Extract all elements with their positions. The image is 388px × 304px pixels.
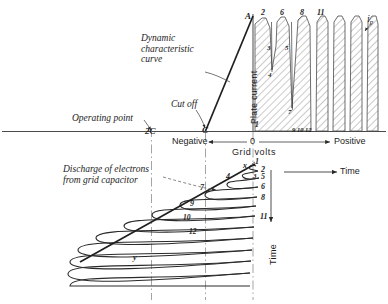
spiral-label-1: 1 xyxy=(255,157,259,166)
discharge-line-1: Discharge of electrons xyxy=(63,164,149,175)
spiral-label-8: 8 xyxy=(261,193,265,202)
plate-current-symbol: ip xyxy=(367,13,373,26)
discharge-leader xyxy=(163,177,216,190)
spiral-label-6: 6 xyxy=(261,182,265,191)
discharge-annotation: Discharge of electrons from grid capacit… xyxy=(63,164,149,185)
pulse-peak-label-8: 8 xyxy=(300,8,304,17)
baseline-label-10: 10 xyxy=(297,126,304,133)
operating-point-label: Operating point xyxy=(72,113,133,124)
grid-volts-axis-label: Grid volts xyxy=(232,147,276,157)
figure-svg xyxy=(0,0,388,304)
spiral-end-label-y: y xyxy=(133,253,137,262)
origin-label: 0 xyxy=(250,136,255,146)
time-axis-horizontal-label: Time xyxy=(340,166,360,176)
dynamic-curve-line-1: Dynamic xyxy=(141,33,194,44)
plate-current-symbol-p: p xyxy=(370,18,374,26)
dynamic-curve-leader xyxy=(205,72,230,82)
discharge-line-2: from grid capacitor xyxy=(63,175,149,186)
negative-axis-label: Negative xyxy=(172,136,208,146)
spiral-label-10: 10 xyxy=(183,213,191,222)
point-label-2C: 2C xyxy=(145,126,156,136)
spiral-label-4: 4 xyxy=(226,172,230,181)
pulse-valley-label-4: 4 xyxy=(268,71,272,79)
point-label-C: C xyxy=(202,125,208,135)
spiral-label-3: 3 xyxy=(253,172,257,180)
spiral-label-12: 12 xyxy=(189,227,197,236)
dynamic-characteristic-curve xyxy=(206,16,254,131)
time-axis-vertical-label: Time xyxy=(268,244,278,265)
positive-axis-label: Positive xyxy=(334,136,366,146)
figure-root: Dynamic characteristic curve Operating p… xyxy=(0,0,388,304)
plate-current-later-pulses xyxy=(316,16,378,131)
spiral-start-label-x: x xyxy=(243,161,247,170)
plate-current-axis-label: Plate current xyxy=(249,71,259,124)
dynamic-curve-line-2: characteristic xyxy=(141,44,194,55)
pulse-inner-label-3: 3 xyxy=(267,44,271,52)
spiral-label-11: 11 xyxy=(260,212,268,221)
baseline-label-9: 9 xyxy=(292,126,295,133)
pulse-valley-label-7: 7 xyxy=(288,108,292,116)
cut-off-label: Cut off xyxy=(171,99,197,110)
pulse-peak-label-11: 11 xyxy=(317,8,325,17)
dynamic-curve-line-3: curve xyxy=(141,54,194,65)
pulse-peak-label-2: 2 xyxy=(261,8,265,17)
spiral-label-5: 5 xyxy=(261,172,265,181)
pulse-inner-label-5: 5 xyxy=(285,44,289,52)
pulse-peak-label-6: 6 xyxy=(280,8,284,17)
point-label-A: A xyxy=(245,11,251,21)
dynamic-curve-annotation: Dynamic characteristic curve xyxy=(141,33,194,65)
spiral-label-9: 9 xyxy=(190,199,194,208)
plate-current-pulse-region xyxy=(255,16,311,131)
spiral-label-7: 7 xyxy=(200,183,204,192)
baseline-label-12: 12 xyxy=(305,126,312,133)
